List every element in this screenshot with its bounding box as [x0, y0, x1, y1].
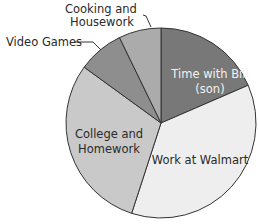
pie-chart: Time with Bill (son) Work at Walmart Col… — [0, 0, 258, 224]
label-time-with-bill-son: (son) — [195, 82, 224, 96]
label-work-at-walmart: Work at Walmart — [152, 153, 249, 167]
label-video-games: Video Games — [6, 35, 82, 49]
label-time-with-bill: Time with Bill — [170, 67, 248, 81]
leader-line-cooking — [143, 15, 151, 27]
label-college: College and — [75, 127, 143, 141]
label-homework: Homework — [78, 142, 140, 156]
pie-slices — [66, 28, 256, 218]
label-cooking: Cooking and — [65, 2, 137, 16]
label-housework: Housework — [70, 15, 134, 29]
